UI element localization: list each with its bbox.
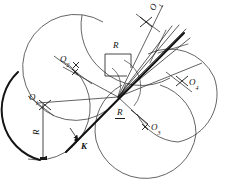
arc-circle-o4 bbox=[137, 49, 217, 142]
construction-figure-svg bbox=[0, 0, 238, 180]
label-o2: O2 bbox=[60, 55, 70, 66]
label-r-top: R bbox=[113, 41, 119, 50]
center-crosses-group bbox=[39, 17, 188, 142]
label-o4-sub: 4 bbox=[196, 85, 199, 91]
label-o4-base: O bbox=[189, 77, 196, 87]
label-o4: O4 bbox=[189, 78, 199, 89]
point-k-dot bbox=[74, 138, 77, 141]
label-o3-base: O bbox=[151, 122, 158, 132]
label-k: K bbox=[81, 142, 87, 151]
center-tick-o1top-a bbox=[136, 14, 160, 32]
fan-line-3 bbox=[118, 29, 186, 97]
label-o3: O3 bbox=[151, 123, 161, 134]
dimension-markers-group bbox=[40, 54, 148, 160]
label-o2-base: O bbox=[60, 54, 67, 64]
label-r-left: R bbox=[32, 130, 41, 136]
geometric-diagram-canvas: O1 O2 O1 O4 O3 K R R R bbox=[0, 0, 238, 180]
arc-circle-o3 bbox=[95, 85, 196, 178]
arc-thick-left bbox=[2, 72, 40, 160]
radius-line-o1left bbox=[38, 97, 118, 103]
r-left-arrow-foot bbox=[40, 157, 46, 160]
radius-line-o2 bbox=[63, 67, 118, 97]
label-o1-left-sub: 1 bbox=[36, 100, 39, 106]
label-r-lower-right: R bbox=[115, 108, 125, 119]
convergent-lines-group bbox=[66, 25, 190, 152]
r-lower-right-leader bbox=[131, 110, 148, 124]
label-o2-sub: 2 bbox=[67, 62, 70, 68]
label-o3-sub: 3 bbox=[158, 130, 161, 136]
k-arrow-shaft bbox=[70, 128, 78, 140]
fan-line-1 bbox=[118, 25, 179, 97]
label-o1-left-base: O bbox=[29, 92, 36, 102]
label-o1-left: O1 bbox=[29, 93, 39, 104]
main-bold-line bbox=[66, 33, 184, 152]
arc-inner-small bbox=[112, 68, 121, 96]
